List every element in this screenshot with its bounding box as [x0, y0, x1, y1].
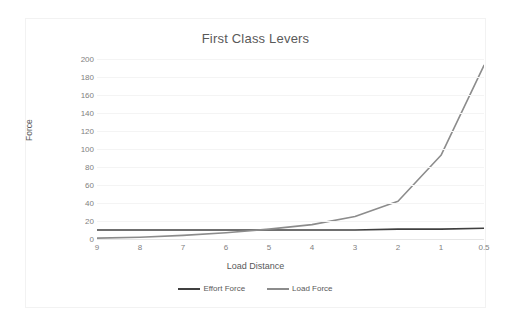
y-axis-tick: 80 — [85, 163, 94, 172]
x-axis-tick: 1 — [439, 243, 443, 252]
x-axis-tick: 4 — [310, 243, 314, 252]
x-axis-tick: 7 — [181, 243, 185, 252]
x-axis-tick: 3 — [353, 243, 357, 252]
x-axis-tick: 2 — [396, 243, 400, 252]
gridline — [97, 203, 484, 204]
legend-item[interactable]: Load Force — [267, 284, 332, 293]
gridline — [97, 221, 484, 222]
plot-area — [97, 59, 484, 239]
series-line — [97, 65, 484, 238]
legend-swatch-icon — [178, 288, 200, 290]
legend-label: Load Force — [292, 284, 332, 293]
x-axis-tick: 6 — [224, 243, 228, 252]
legend-swatch-icon — [267, 288, 289, 290]
legend-label: Effort Force — [203, 284, 245, 293]
y-axis-tick: 40 — [85, 199, 94, 208]
x-axis-tick: 8 — [138, 243, 142, 252]
gridline — [97, 95, 484, 96]
chart-frame: First Class Levers Force 200180160140120… — [25, 18, 486, 308]
y-axis-tick: 20 — [85, 217, 94, 226]
y-axis-tick: 140 — [81, 109, 94, 118]
y-axis-tick: 0 — [90, 235, 94, 244]
x-axis-tick: 9 — [95, 243, 99, 252]
gridline — [97, 131, 484, 132]
x-axis-line — [97, 239, 484, 240]
x-axis-tick: 0.5 — [478, 243, 489, 252]
chart-legend: Effort ForceLoad Force — [26, 284, 485, 293]
y-axis-tick: 60 — [85, 181, 94, 190]
y-axis-tick: 120 — [81, 127, 94, 136]
legend-item[interactable]: Effort Force — [178, 284, 245, 293]
gridline — [97, 113, 484, 114]
y-axis-tick: 180 — [81, 73, 94, 82]
y-axis-title: Force — [24, 119, 34, 141]
series-line — [97, 228, 484, 230]
chart-title: First Class Levers — [26, 31, 485, 46]
y-axis-tick-labels: 200180160140120100806040200 — [56, 59, 94, 239]
gridline — [97, 59, 484, 60]
gridline — [97, 167, 484, 168]
x-axis-title: Load Distance — [26, 261, 485, 271]
y-axis-tick: 100 — [81, 145, 94, 154]
gridline — [97, 149, 484, 150]
gridline — [97, 77, 484, 78]
y-axis-tick: 200 — [81, 55, 94, 64]
x-axis-tick-labels: 9876543210.5 — [97, 243, 484, 257]
y-axis-tick: 160 — [81, 91, 94, 100]
x-axis-tick: 5 — [267, 243, 271, 252]
gridline — [97, 185, 484, 186]
